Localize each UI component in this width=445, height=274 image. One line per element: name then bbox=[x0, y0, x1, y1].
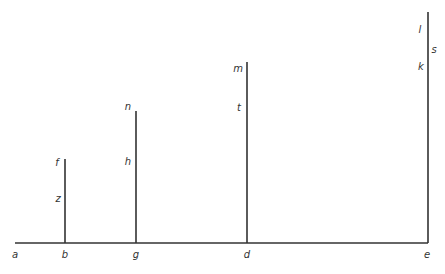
label-s: s bbox=[431, 45, 436, 55]
label-k: k bbox=[418, 62, 424, 72]
label-f: f bbox=[55, 158, 59, 168]
label-n: n bbox=[125, 102, 131, 112]
label-l: l bbox=[419, 25, 422, 35]
label-m: m bbox=[233, 64, 243, 74]
label-d: d bbox=[244, 250, 250, 260]
diagram-lines bbox=[0, 0, 445, 274]
geometric-diagram: a b g d e f z n h m t l s k bbox=[0, 0, 445, 274]
label-h: h bbox=[125, 157, 131, 167]
label-e: e bbox=[424, 250, 430, 260]
label-t: t bbox=[237, 103, 241, 113]
label-g: g bbox=[133, 250, 139, 260]
label-z: z bbox=[55, 194, 60, 204]
label-a: a bbox=[12, 250, 18, 260]
label-b: b bbox=[62, 250, 68, 260]
